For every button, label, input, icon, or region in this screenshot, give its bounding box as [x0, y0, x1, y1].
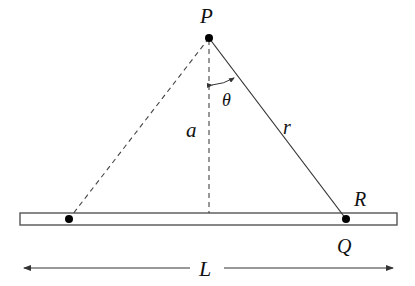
line-r	[209, 38, 346, 219]
rod	[20, 213, 397, 225]
label-a: a	[186, 118, 197, 142]
label-theta: θ	[222, 90, 231, 110]
diagram-canvas: P θ a r R Q L	[0, 0, 415, 286]
label-L: L	[198, 256, 211, 281]
theta-arc	[212, 78, 234, 85]
label-R: R	[353, 188, 366, 210]
point-left	[65, 215, 73, 223]
label-P: P	[199, 4, 213, 28]
point-Q	[342, 215, 350, 223]
label-Q: Q	[337, 235, 352, 257]
label-r: r	[283, 116, 291, 138]
point-P	[205, 34, 213, 42]
